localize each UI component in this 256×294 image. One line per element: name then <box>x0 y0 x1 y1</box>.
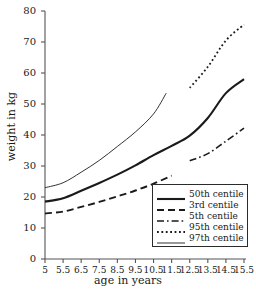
legend-label: 97th centile <box>189 233 244 243</box>
legend-box: 50th centile3rd centile5th centile95th c… <box>152 184 248 247</box>
legend-label: 5th centile <box>189 211 238 221</box>
legend-label: 50th centile <box>189 189 244 199</box>
series-line-5th-centile <box>190 128 244 161</box>
y-tick-label: 70 <box>10 37 36 47</box>
legend-swatch-icon <box>156 189 186 199</box>
legend-swatch-icon <box>156 211 186 221</box>
series-line-97th-centile <box>45 93 166 188</box>
y-tick-label: 20 <box>10 192 36 202</box>
legend-item: 95th centile <box>156 221 244 232</box>
y-tick-label: 80 <box>10 6 36 16</box>
growth-chart: 01020304050607080 55.56.57.58.59.510.511… <box>0 0 256 294</box>
legend-item: 97th centile <box>156 232 244 243</box>
legend-label: 95th centile <box>189 222 244 232</box>
chart-plot-area <box>0 0 256 294</box>
legend-item: 3rd centile <box>156 199 244 210</box>
y-tick-label: 10 <box>10 223 36 233</box>
legend-swatch-icon <box>156 200 186 210</box>
legend-swatch-icon <box>156 233 186 243</box>
legend-swatch-icon <box>156 222 186 232</box>
y-axis-title: weight in kg <box>5 82 18 172</box>
y-tick-label: 60 <box>10 68 36 78</box>
x-axis-title: age in years <box>0 274 256 287</box>
y-tick-label: 0 <box>10 254 36 264</box>
series-line-95th-centile <box>190 25 244 88</box>
legend-item: 5th centile <box>156 210 244 221</box>
legend-label: 3rd centile <box>189 200 239 210</box>
legend-item: 50th centile <box>156 188 244 199</box>
